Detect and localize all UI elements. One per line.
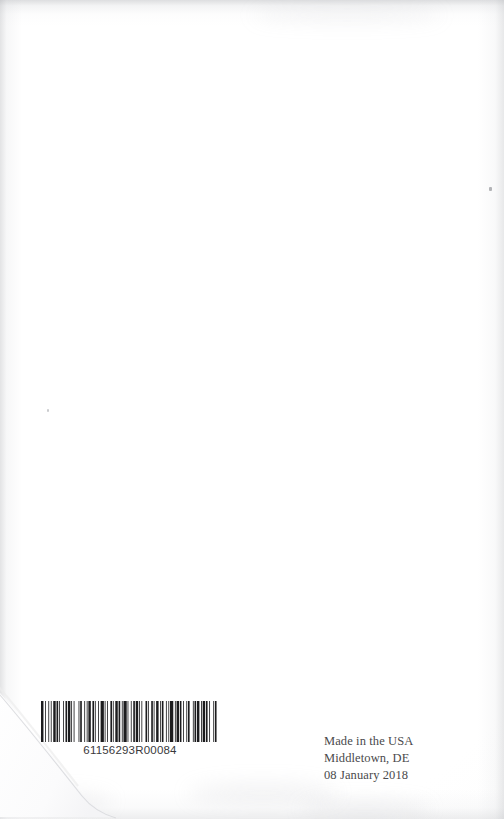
back-cover-page: 61156293R00084 Made in the USA Middletow… (0, 0, 504, 819)
imprint-line-city: Middletown, DE (324, 750, 413, 767)
scan-blotch (22, 792, 112, 810)
imprint-line-date: 08 January 2018 (324, 767, 413, 784)
barcode: 61156293R00084 (41, 701, 219, 756)
imprint-line-made-in: Made in the USA (324, 733, 413, 750)
scan-speck (489, 187, 492, 191)
page-edge-shadow-left (0, 0, 22, 819)
scan-blotch (188, 782, 338, 804)
scan-blotch (300, 800, 430, 818)
barcode-number-label: 61156293R00084 (41, 744, 219, 756)
page-edge-shadow-right (478, 0, 504, 819)
scan-blotch (252, 8, 442, 22)
barcode-bars (41, 701, 219, 742)
imprint-block: Made in the USA Middletown, DE 08 Januar… (324, 733, 413, 784)
scan-speck (47, 409, 49, 412)
paper-surface (0, 0, 504, 819)
